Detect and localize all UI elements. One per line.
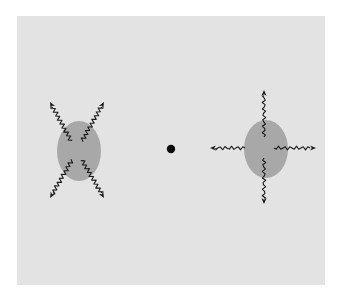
left-blob: [57, 121, 101, 181]
diagram-canvas: [0, 0, 339, 299]
center-dot: [167, 145, 175, 153]
